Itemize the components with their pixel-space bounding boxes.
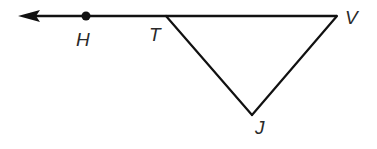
- point-h-dot: [82, 12, 91, 21]
- label-t: T: [149, 24, 162, 45]
- segment-tj: [166, 16, 252, 115]
- label-j: J: [254, 117, 265, 138]
- segment-jv: [252, 16, 337, 115]
- label-h: H: [76, 29, 90, 50]
- geometry-diagram: H T V J: [0, 0, 377, 149]
- label-v: V: [345, 7, 360, 28]
